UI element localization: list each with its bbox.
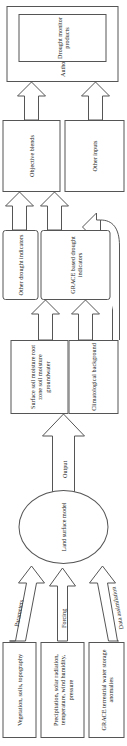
- arrow-label-output: Output: [60, 461, 67, 478]
- node-drought-monitor-products: Drought monitor products: [18, 14, 106, 62]
- arrow-output: [42, 414, 84, 493]
- node-land-surface-model: Land surface model: [18, 490, 108, 564]
- arrow-forcing: [49, 568, 75, 641]
- arrow-other-indicators-to-objective-blends: [5, 192, 33, 230]
- arrow-grace-indicators-to-objective-blends: [40, 192, 68, 230]
- arrow-soilmoisture-to-grace-indicators: [31, 300, 59, 340]
- node-soil-moisture-groundwater: Surface soil moisture root zone soil moi…: [10, 340, 68, 414]
- arrow-other-inputs-to-authors: [81, 82, 109, 120]
- node-other-inputs: Other inputs: [64, 120, 124, 192]
- node-meteorological-forcing: Precipitation, solar radiation, temperat…: [40, 642, 84, 738]
- arrow-parameters: [9, 566, 44, 641]
- node-climatological-background: Climatological background: [68, 340, 118, 414]
- node-other-drought-indicators: Other drought indicators: [2, 230, 38, 300]
- node-grace-based-drought-indicators: GRACE based drought indicators: [40, 230, 110, 300]
- arrow-label-forcing: Forcing: [59, 609, 66, 628]
- node-vegetation-soils-topography: Vegetation, soils, topography: [2, 642, 36, 738]
- arrow-climatology-to-grace-indicators: [71, 300, 99, 340]
- node-grace-tws-anomalies: GRACE terrestrial water storage anomalie…: [88, 642, 124, 738]
- diagram-canvas: Parameters Forcing Data assimilation Out…: [0, 0, 127, 746]
- node-objective-blends: Objective blends: [2, 120, 60, 192]
- arrow-objective-blends-to-authors: [17, 82, 45, 120]
